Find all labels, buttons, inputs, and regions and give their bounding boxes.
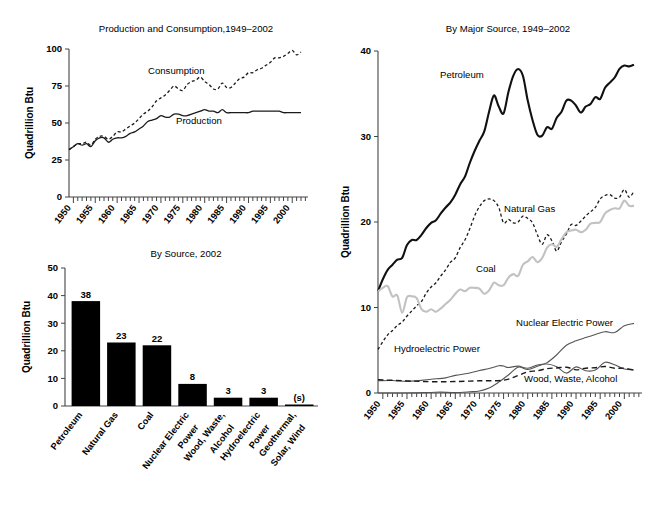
- x-tick-label: 1955: [74, 203, 95, 225]
- x-tick-label: 1975: [162, 203, 183, 225]
- series-label: Nuclear Electric Power: [516, 317, 614, 328]
- x-tick-label: 2000: [603, 399, 624, 421]
- y-axis-label: Quadrillion Btu: [340, 186, 351, 258]
- series-line: [378, 65, 634, 292]
- bar: [285, 405, 314, 407]
- y-tick-label: 50: [51, 117, 62, 128]
- bar-value-label: 22: [152, 333, 163, 344]
- x-tick-label: 1970: [458, 399, 479, 421]
- bar-category-label: Natural Gas: [80, 410, 120, 457]
- production-consumption-plot: Production and Consumption,1949–20020255…: [0, 0, 336, 250]
- y-tick-label: 0: [57, 191, 62, 202]
- chart-title: By Major Source, 1949–2002: [446, 23, 570, 34]
- y-axis-label: Quadrillion Btu: [24, 87, 35, 159]
- by-source-2002-plot: By Source, 200201020304050Quadrillion Bt…: [0, 243, 336, 514]
- y-tick-label: 20: [360, 216, 371, 227]
- x-tick-label: 1965: [434, 399, 455, 421]
- bar-group: 38Petroleum: [49, 289, 100, 452]
- production-consumption-chart: Production and Consumption,1949–20020255…: [0, 0, 336, 250]
- y-tick-label: 30: [47, 318, 58, 329]
- series-label: Wood, Waste, Alcohol: [524, 373, 617, 384]
- chart-title: Production and Consumption,1949–2002: [99, 23, 273, 34]
- bar-group: 22Coal: [135, 333, 171, 432]
- y-tick-label: 0: [366, 387, 371, 398]
- series-label: Petroleum: [440, 69, 484, 80]
- bar: [178, 384, 207, 406]
- bar-category-label: Coal: [135, 410, 155, 432]
- y-tick-label: 100: [46, 43, 62, 54]
- y-tick-label: 25: [51, 154, 62, 165]
- series-label: Consumption: [148, 65, 205, 76]
- x-tick-label: 1985: [206, 203, 227, 225]
- bar: [107, 343, 136, 407]
- series-label: Natural Gas: [504, 203, 555, 214]
- x-tick-label: 1980: [184, 203, 205, 225]
- bar: [143, 345, 172, 406]
- x-tick-label: 1995: [249, 203, 270, 225]
- bar-value-label: 23: [116, 330, 127, 341]
- x-tick-label: 1960: [410, 399, 431, 421]
- x-tick-label: 1970: [140, 203, 161, 225]
- series-label: Coal: [476, 263, 496, 274]
- by-major-source-plot: By Major Source, 1949–2002010203040Quadr…: [336, 0, 672, 500]
- y-tick-label: 0: [53, 400, 58, 411]
- series-label: Production: [176, 115, 222, 126]
- x-tick-label: 1950: [52, 203, 73, 225]
- bar-value-label: 38: [80, 289, 91, 300]
- x-tick-label: 1960: [96, 203, 117, 225]
- y-tick-label: 40: [47, 290, 58, 301]
- bar-value-label: (s): [293, 392, 305, 403]
- by-major-source-chart: By Major Source, 1949–2002010203040Quadr…: [336, 0, 672, 500]
- y-tick-label: 10: [47, 373, 58, 384]
- y-tick-label: 40: [360, 45, 371, 56]
- chart-title: By Source, 2002: [151, 248, 222, 259]
- x-tick-label: 1965: [118, 203, 139, 225]
- x-tick-label: 1955: [386, 399, 407, 421]
- x-tick-label: 1950: [362, 399, 383, 421]
- series-label: Hydroelectric Power: [394, 343, 481, 354]
- bar: [249, 398, 278, 406]
- x-tick-label: 1980: [507, 399, 528, 421]
- bar-category-label: Petroleum: [49, 410, 85, 452]
- y-axis-label: Quadrillion Btu: [21, 301, 32, 373]
- x-tick-label: 1995: [579, 399, 600, 421]
- x-tick-label: 1990: [227, 203, 248, 225]
- x-tick-label: 1985: [531, 399, 552, 421]
- y-tick-label: 75: [51, 80, 62, 91]
- by-source-2002-chart: By Source, 200201020304050Quadrillion Bt…: [0, 243, 336, 514]
- bar: [72, 301, 101, 406]
- y-tick-label: 50: [47, 262, 58, 273]
- bar-value-label: 3: [225, 385, 230, 396]
- y-tick-label: 10: [360, 302, 371, 313]
- x-tick-label: 1975: [483, 399, 504, 421]
- bar-value-label: 8: [190, 371, 195, 382]
- y-tick-label: 20: [47, 345, 58, 356]
- x-tick-label: 2000: [271, 203, 292, 225]
- series-line: [378, 201, 634, 313]
- bar: [214, 398, 243, 406]
- y-tick-label: 30: [360, 131, 371, 142]
- bar-value-label: 3: [261, 385, 266, 396]
- x-tick-label: 1990: [555, 399, 576, 421]
